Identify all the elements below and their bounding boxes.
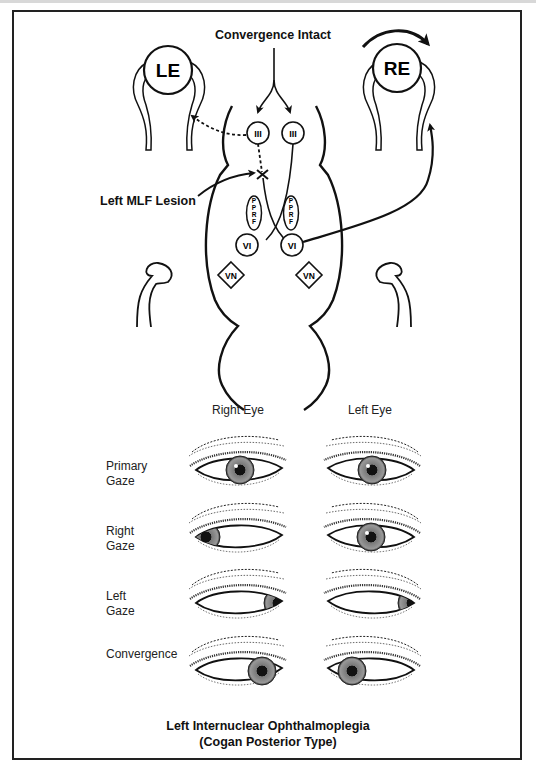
eye-row-convergence bbox=[189, 636, 421, 685]
solid-arrow-icon bbox=[303, 125, 433, 242]
row-label-left-gaze: Left Gaze bbox=[106, 589, 135, 619]
oculomotor-nucleus-left: III bbox=[247, 122, 269, 144]
svg-text:F: F bbox=[289, 218, 293, 225]
svg-text:VN: VN bbox=[303, 271, 315, 281]
svg-text:P: P bbox=[252, 197, 257, 204]
lesion-pointer-arrow bbox=[198, 173, 254, 196]
convergence-input bbox=[258, 48, 290, 112]
brainstem-diagram: LE RE III III P bbox=[0, 0, 536, 767]
right-eye-primary bbox=[189, 436, 286, 485]
abducens-nucleus-left: VI bbox=[236, 234, 258, 256]
figure-title: Left Internuclear Ophthalmoplegia (Cogan… bbox=[0, 718, 536, 750]
vestibular-organ-right bbox=[376, 263, 411, 327]
left-eye-label: LE bbox=[156, 60, 180, 81]
svg-text:R: R bbox=[252, 211, 257, 218]
figure-title-line2: (Cogan Posterior Type) bbox=[0, 734, 536, 750]
left-eye-primary bbox=[324, 436, 421, 485]
vestibular-organ-left bbox=[137, 263, 172, 327]
left-eye-left-gaze bbox=[324, 569, 426, 618]
pprf-right: P P R F bbox=[284, 196, 299, 230]
abducens-nucleus-right: VI bbox=[281, 234, 303, 256]
vestibular-nucleus-right: VN bbox=[296, 262, 322, 288]
vestibular-nucleus-left: VN bbox=[218, 262, 244, 288]
svg-text:VI: VI bbox=[243, 241, 252, 251]
left-eye-convergence bbox=[324, 636, 421, 685]
svg-text:F: F bbox=[252, 218, 256, 225]
convergence-intact-label: Convergence Intact bbox=[215, 28, 331, 42]
left-eye-right-gaze bbox=[324, 503, 421, 552]
svg-text:P: P bbox=[289, 197, 294, 204]
mlf-interrupted bbox=[258, 144, 262, 172]
right-eye-left-gaze bbox=[189, 569, 292, 618]
pprf-left: P P R F bbox=[247, 196, 262, 230]
column-header-left-eye: Left Eye bbox=[348, 403, 392, 417]
row-label-convergence: Convergence bbox=[106, 647, 177, 662]
svg-text:R: R bbox=[289, 211, 294, 218]
svg-text:III: III bbox=[254, 129, 262, 139]
right-eye-convergence bbox=[189, 636, 286, 685]
eye-row-right-gaze bbox=[189, 503, 421, 552]
dashed-arrow-icon bbox=[192, 116, 246, 135]
left-mlf-lesion-label: Left MLF Lesion bbox=[100, 194, 196, 208]
row-label-right-gaze: Right Gaze bbox=[106, 524, 135, 554]
eye-row-left-gaze bbox=[189, 569, 426, 618]
row-label-primary-gaze: Primary Gaze bbox=[106, 459, 147, 489]
right-eye-label: RE bbox=[384, 58, 410, 79]
svg-text:VN: VN bbox=[225, 271, 237, 281]
right-eye-right-gaze bbox=[189, 503, 286, 552]
eye-row-primary bbox=[189, 436, 421, 485]
oculomotor-nucleus-right: III bbox=[282, 122, 304, 144]
figure-title-line1: Left Internuclear Ophthalmoplegia bbox=[0, 718, 536, 734]
svg-text:P: P bbox=[289, 204, 294, 211]
column-header-right-eye: Right Eye bbox=[212, 403, 264, 417]
svg-text:VI: VI bbox=[288, 241, 297, 251]
left-eye-globe: LE bbox=[133, 46, 204, 150]
svg-text:P: P bbox=[252, 204, 257, 211]
brainstem-outline bbox=[206, 106, 342, 410]
right-eye-globe: RE bbox=[363, 44, 434, 150]
svg-text:III: III bbox=[289, 129, 297, 139]
